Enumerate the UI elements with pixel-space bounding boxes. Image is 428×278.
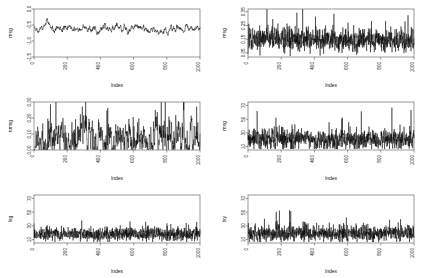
x-tick-label: 200 xyxy=(63,155,68,163)
y-tick-label: 30 xyxy=(27,223,32,229)
x-axis-label: Index xyxy=(325,268,338,274)
x-tick-label: 400 xyxy=(310,155,315,163)
x-tick-label: 400 xyxy=(96,155,101,163)
y-axis-label: msg xyxy=(221,28,227,38)
y-tick-label: 30 xyxy=(241,130,246,136)
y-tick-label: 0.00 xyxy=(27,145,32,154)
x-tick-label: 200 xyxy=(277,155,282,163)
x-tick-label: 0 xyxy=(244,62,249,65)
y-tick-label: 0.30 xyxy=(27,97,32,106)
y-tick-label: 70 xyxy=(241,102,246,108)
y-axis-label: lsg xyxy=(7,216,13,223)
y-tick-label: -0.5 xyxy=(27,21,32,29)
x-tick-label: 0 xyxy=(30,248,35,251)
y-tick-label: 10 xyxy=(241,237,246,243)
x-tick-label: 0 xyxy=(244,248,249,251)
x-tick-label: 600 xyxy=(130,155,135,163)
series-line xyxy=(248,210,414,242)
y-tick-label: 0.15 xyxy=(241,34,246,43)
x-tick-label: 600 xyxy=(344,155,349,163)
x-tick-label: 400 xyxy=(310,62,315,70)
y-tick-label: 0.10 xyxy=(27,129,32,138)
x-tick-label: 1000 xyxy=(196,62,201,73)
plot-panel-bottom-right: 0200400600800100010305070lsyIndex xyxy=(214,186,428,278)
x-tick-label: 200 xyxy=(63,248,68,256)
x-tick-label: 1000 xyxy=(410,248,415,259)
x-tick-label: 0 xyxy=(30,62,35,65)
y-tick-label: 10 xyxy=(241,144,246,150)
x-tick-label: 200 xyxy=(63,62,68,70)
x-tick-label: 800 xyxy=(377,155,382,163)
x-tick-label: 800 xyxy=(377,62,382,70)
y-axis-label: msg xyxy=(221,121,227,131)
x-tick-label: 800 xyxy=(377,248,382,256)
plot-canvas: 0200400600800100010305070msgIndex xyxy=(214,93,428,186)
x-tick-label: 1000 xyxy=(196,248,201,259)
x-tick-label: 600 xyxy=(130,62,135,70)
y-tick-label: 50 xyxy=(241,209,246,215)
plot-panel-top-left: 020040060080010000.0-0.5-1.0-1.5msgIndex xyxy=(0,0,214,93)
x-tick-label: 600 xyxy=(344,248,349,256)
y-tick-label: 50 xyxy=(27,209,32,215)
x-tick-label: 400 xyxy=(96,62,101,70)
x-tick-label: 600 xyxy=(130,248,135,256)
series-line xyxy=(34,102,200,149)
plot-grid: 020040060080010000.0-0.5-1.0-1.5msgIndex… xyxy=(0,0,428,278)
plot-canvas: 0200400600800100010305070lsyIndex xyxy=(214,186,428,278)
x-tick-label: 1000 xyxy=(196,155,201,166)
x-tick-label: 200 xyxy=(277,248,282,256)
y-axis-label: msg xyxy=(7,28,13,38)
x-tick-label: 1000 xyxy=(410,155,415,166)
y-tick-label: 0.0 xyxy=(27,5,32,12)
y-tick-label: 0.05 xyxy=(241,48,246,57)
y-tick-label: 0.35 xyxy=(241,7,246,16)
x-axis-label: Index xyxy=(325,82,338,88)
y-tick-label: -1.5 xyxy=(27,53,32,61)
y-tick-label: 30 xyxy=(241,223,246,229)
x-tick-label: 400 xyxy=(96,248,101,256)
x-tick-label: 400 xyxy=(310,248,315,256)
x-tick-label: 800 xyxy=(163,248,168,256)
y-tick-label: 10 xyxy=(27,237,32,243)
x-axis-label: Index xyxy=(111,175,124,181)
y-tick-label: 50 xyxy=(241,116,246,122)
y-tick-label: -1.0 xyxy=(27,37,32,45)
x-tick-label: 600 xyxy=(344,62,349,70)
plot-canvas: 020040060080010000.050.150.250.35msgInde… xyxy=(214,0,428,93)
y-axis-label: nmsg xyxy=(7,120,13,132)
x-axis-label: Index xyxy=(325,175,338,181)
y-tick-label: 0.25 xyxy=(241,21,246,30)
plot-panel-middle-left: 020040060080010000.000.100.200.30nmsgInd… xyxy=(0,93,214,186)
series-line xyxy=(248,9,414,56)
series-line xyxy=(34,18,200,35)
series-line xyxy=(248,108,414,149)
series-line xyxy=(34,220,200,242)
x-tick-label: 200 xyxy=(277,62,282,70)
x-tick-label: 0 xyxy=(244,155,249,158)
plot-canvas: 0200400600800100010305070lsgIndex xyxy=(0,186,214,278)
y-tick-label: 70 xyxy=(241,195,246,201)
plot-canvas: 020040060080010000.000.100.200.30nmsgInd… xyxy=(0,93,214,186)
x-tick-label: 800 xyxy=(163,155,168,163)
x-axis-label: Index xyxy=(111,268,124,274)
plot-panel-bottom-left: 0200400600800100010305070lsgIndex xyxy=(0,186,214,278)
plot-box xyxy=(34,9,200,57)
plot-canvas: 020040060080010000.0-0.5-1.0-1.5msgIndex xyxy=(0,0,214,93)
x-axis-label: Index xyxy=(111,82,124,88)
x-tick-label: 1000 xyxy=(410,62,415,73)
y-tick-label: 70 xyxy=(27,195,32,201)
plot-panel-middle-right: 0200400600800100010305070msgIndex xyxy=(214,93,428,186)
y-axis-label: lsy xyxy=(221,215,227,222)
plot-panel-top-right: 020040060080010000.050.150.250.35msgInde… xyxy=(214,0,428,93)
x-tick-label: 800 xyxy=(163,62,168,70)
y-tick-label: 0.20 xyxy=(27,113,32,122)
